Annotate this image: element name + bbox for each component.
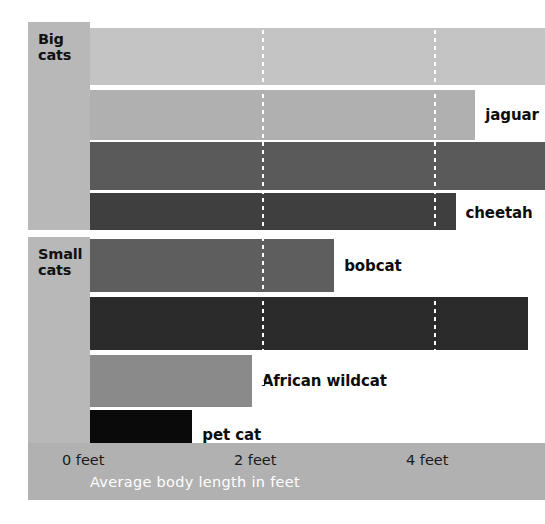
bar-label: cheetah [466, 204, 533, 222]
bar [90, 193, 456, 230]
bar-label: pet cat [202, 426, 261, 443]
bar [90, 239, 334, 292]
group-label-line-1: Small [38, 246, 88, 262]
bar-row [90, 142, 545, 190]
group-small-cats: Small cats bobcatAfrican wildcatpet cat [28, 237, 545, 443]
plot-area-small-cats: bobcatAfrican wildcatpet cat [90, 237, 545, 443]
bar-row [90, 297, 545, 350]
axis-band: Average body length in feet 0 feet2 feet… [28, 443, 545, 500]
group-label-small-cats: Small cats [38, 246, 88, 278]
bar [90, 28, 545, 85]
group-label-line-2: cats [38, 262, 88, 278]
bar-row: bobcat [90, 239, 545, 292]
bar [90, 297, 528, 350]
group-label-big-cats: Big cats [38, 31, 88, 63]
tick-label-2ft: 2 feet [234, 452, 276, 468]
plot-area-big-cats: jaguarcheetah [90, 22, 545, 230]
bar-row: African wildcat [90, 355, 545, 407]
bar-row: pet cat [90, 410, 545, 443]
bar-row: jaguar [90, 90, 545, 140]
tick-label-4ft: 4 feet [406, 452, 448, 468]
bar-row: cheetah [90, 193, 545, 230]
group-big-cats: Big cats jaguarcheetah [28, 22, 545, 230]
bar-label: jaguar [485, 106, 539, 124]
group-label-line-1: Big [38, 31, 88, 47]
group-label-line-2: cats [38, 47, 88, 63]
tick-label-0ft: 0 feet [62, 452, 104, 468]
axis-title: Average body length in feet [90, 474, 300, 490]
bar-chart: Big cats jaguarcheetah Small cats bobcat… [28, 22, 545, 500]
bar [90, 410, 192, 443]
bar-row [90, 28, 545, 85]
bar-label: bobcat [344, 257, 401, 275]
bar [90, 142, 545, 190]
bar-label: African wildcat [262, 372, 387, 390]
bar [90, 355, 252, 407]
bar [90, 90, 475, 140]
